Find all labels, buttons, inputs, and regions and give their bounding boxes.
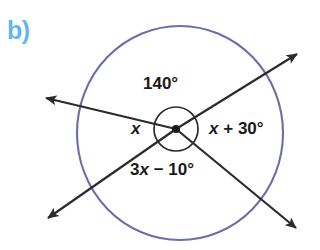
angle-diagram-svg (0, 0, 320, 250)
angle-label-right: x + 30° (209, 120, 264, 137)
geometry-figure: b) 140° x x + 30° 3x − 10° (0, 0, 320, 250)
angle-label-bottom: 3x − 10° (130, 161, 194, 178)
center-vertex-dot (172, 125, 180, 133)
angle-label-left: x (131, 120, 140, 137)
part-label: b) (7, 18, 30, 43)
angle-label-top: 140° (143, 75, 178, 92)
ray-upper-left (46, 98, 176, 129)
